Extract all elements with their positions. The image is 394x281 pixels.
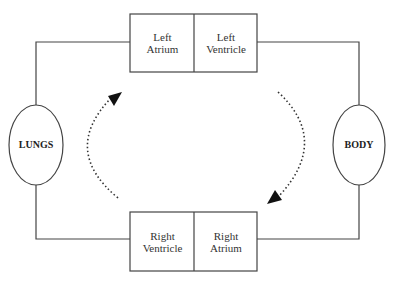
left-atrium-line1: Left: [131, 31, 194, 43]
left-atrium-line2: Atrium: [131, 43, 194, 55]
right-ventricle-line2: Ventricle: [131, 242, 194, 254]
right-ventricle-line1: Right: [131, 230, 194, 242]
left-ventricle-line1: Left: [195, 31, 257, 43]
left-ventricle-line2: Ventricle: [195, 43, 257, 55]
left-arrowhead-icon: [108, 92, 122, 106]
right-atrium-line2: Atrium: [195, 242, 257, 254]
left-atrium-label: Left Atrium: [131, 31, 194, 55]
left-dotted-arrow-path: [87, 97, 118, 198]
body-label: BODY: [333, 139, 385, 150]
right-dotted-arrow-path: [278, 92, 305, 195]
lungs-label: LUNGS: [9, 139, 63, 150]
right-ventricle-label: Right Ventricle: [131, 230, 194, 254]
right-arrowhead-icon: [267, 190, 282, 204]
right-atrium-label: Right Atrium: [195, 230, 257, 254]
right-atrium-line1: Right: [195, 230, 257, 242]
left-ventricle-label: Left Ventricle: [195, 31, 257, 55]
